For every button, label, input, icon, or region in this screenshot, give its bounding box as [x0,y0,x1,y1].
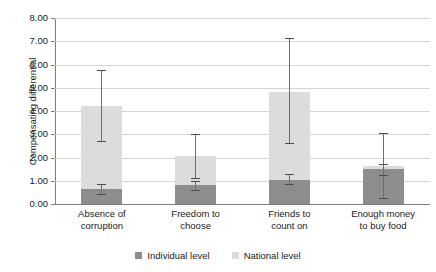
x-category-label: Enough moneyto buy food [336,208,430,232]
x-category-label-line: count on [243,220,337,232]
error-bar-national-cap-lower [379,198,388,199]
y-tick-mark [51,18,55,19]
legend-label: Individual level [147,250,209,261]
bar-group[interactable] [175,18,216,204]
error-bar-individual-cap-lower [379,175,388,176]
y-tick-mark [51,111,55,112]
error-bar-national [289,38,290,143]
error-bar-national [101,70,102,141]
x-category-label-line: Friends to [243,208,337,220]
y-tick-label: 8.00 [4,13,48,23]
x-category-label: Freedom tochoose [149,208,243,232]
error-bar-individual-cap-upper [285,174,294,175]
error-bar-individual [101,184,102,193]
legend-swatch-icon [135,252,142,259]
x-category-label-line: choose [149,220,243,232]
x-category-label-line: Enough money [336,208,430,220]
chart-legend: Individual levelNational level [0,250,436,261]
legend-item[interactable]: National level [232,250,301,261]
error-bar-national-cap-lower [191,178,200,179]
cropped-header-text [62,0,382,7]
error-bar-individual-cap-upper [379,164,388,165]
y-tick-label: 0.00 [4,199,48,209]
y-tick-mark [51,181,55,182]
y-tick-label: 5.00 [4,83,48,93]
y-tick-mark [51,41,55,42]
y-tick-label: 3.00 [4,129,48,139]
error-bar-national-cap-upper [379,133,388,134]
y-tick-label: 1.00 [4,176,48,186]
plot-area: 8.007.006.005.004.003.002.001.000.00 [55,18,430,204]
y-tick-mark [51,65,55,66]
x-category-label-line: Absence of [55,208,149,220]
error-bar-national-cap-upper [285,38,294,39]
error-bar-national-cap-lower [285,143,294,144]
x-category-label-line: corruption [55,220,149,232]
x-category-label: Absence ofcorruption [55,208,149,232]
error-bar-national-cap-lower [97,141,106,142]
chart-figure: Compensating differential 8.007.006.005.… [0,0,436,272]
x-category-label: Friends tocount on [243,208,337,232]
legend-item[interactable]: Individual level [135,250,209,261]
x-category-label-line: to buy food [336,220,430,232]
error-bar-individual-cap-upper [97,184,106,185]
x-axis-line [55,204,430,205]
bar-group[interactable] [269,18,310,204]
y-tick-label: 7.00 [4,36,48,46]
y-tick-label: 6.00 [4,60,48,70]
y-tick-mark [51,88,55,89]
error-bar-individual-cap-lower [191,190,200,191]
error-bar-national [195,134,196,179]
x-category-label-line: Freedom to [149,208,243,220]
y-tick-mark [51,204,55,205]
legend-label: National level [244,250,301,261]
legend-swatch-icon [232,252,239,259]
error-bar-national-cap-upper [97,70,106,71]
bar-group[interactable] [81,18,122,204]
error-bar-national-cap-upper [191,134,200,135]
y-tick-mark [51,134,55,135]
error-bar-individual-cap-lower [285,184,294,185]
error-bar-individual-cap-lower [97,194,106,195]
y-tick-mark [51,158,55,159]
error-bar-individual [289,174,290,184]
bar-group[interactable] [363,18,404,204]
error-bar-individual [195,181,196,189]
y-tick-label: 2.00 [4,153,48,163]
y-tick-label: 4.00 [4,106,48,116]
error-bar-individual [383,164,384,175]
error-bar-individual-cap-upper [191,181,200,182]
